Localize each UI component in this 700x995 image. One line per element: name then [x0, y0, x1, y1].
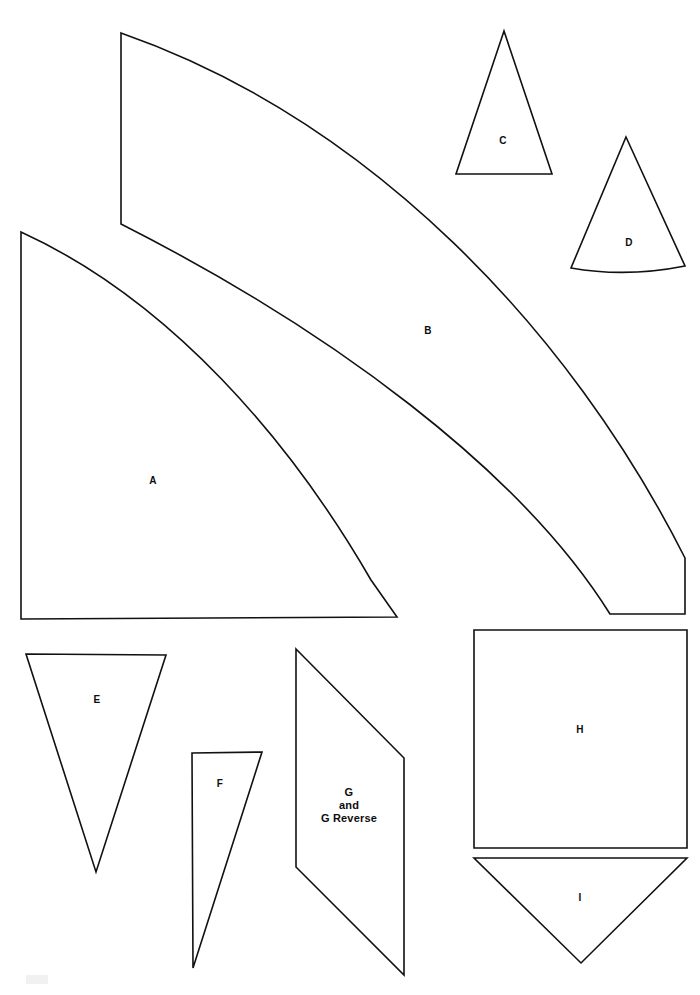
- piece-shape-C: [456, 31, 552, 174]
- piece-label-F: F: [217, 778, 223, 791]
- pattern-sheet-page: A B C D E F G and G Reverse H I: [0, 0, 700, 995]
- piece-label-A: A: [149, 475, 156, 488]
- scan-edge-artifact: [26, 975, 48, 984]
- piece-label-D: D: [625, 237, 632, 250]
- piece-shape-F: [192, 752, 262, 968]
- piece-label-I: I: [579, 892, 582, 905]
- piece-shape-E: [26, 654, 166, 872]
- piece-label-E: E: [94, 694, 101, 707]
- piece-label-B: B: [424, 325, 431, 338]
- piece-label-H: H: [576, 724, 583, 737]
- piece-shape-I: [474, 858, 687, 963]
- pattern-shapes-canvas: [0, 0, 700, 995]
- piece-label-G: G and G Reverse: [321, 786, 377, 826]
- piece-shape-D: [571, 137, 685, 272]
- piece-shape-H: [474, 630, 687, 848]
- piece-label-C: C: [499, 135, 506, 148]
